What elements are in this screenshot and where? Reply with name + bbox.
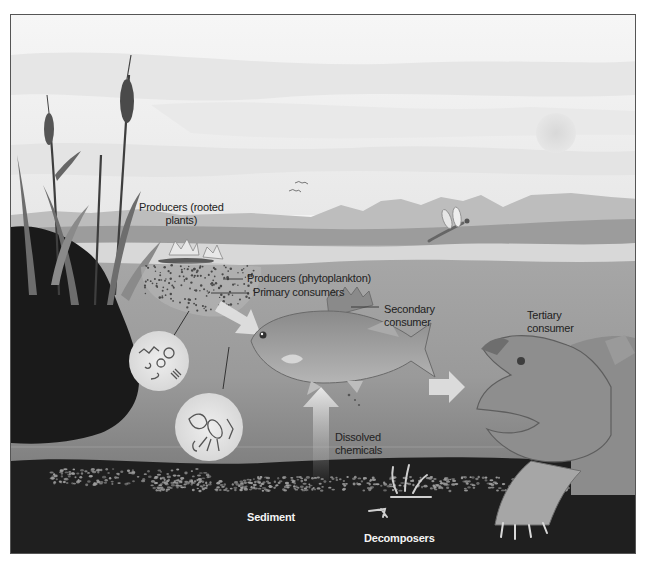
sediment-pebble: [470, 484, 474, 486]
sediment-pebble: [199, 472, 203, 474]
sediment-pebble: [493, 481, 497, 483]
plankton-dot: [170, 278, 172, 280]
plankton-dot: [180, 265, 182, 267]
sediment-pebble: [468, 480, 471, 482]
sediment-pebble: [433, 478, 437, 480]
sediment-pebble: [439, 480, 442, 482]
sediment-pebble: [92, 471, 96, 473]
label-line: Producers (rooted: [139, 201, 224, 214]
sediment-pebble: [383, 482, 385, 485]
plankton-dot: [232, 284, 234, 286]
sediment-pebble: [59, 471, 61, 473]
sediment-pebble: [151, 480, 155, 483]
sediment-pebble: [197, 474, 201, 476]
sediment-pebble: [346, 476, 348, 478]
plankton-dot: [225, 266, 227, 268]
sediment-pebble: [485, 479, 488, 481]
sediment-pebble: [234, 489, 237, 491]
plankton-dot: [237, 285, 239, 287]
sediment-pebble: [206, 485, 209, 487]
plankton-dot: [227, 270, 229, 272]
plankton-dot: [186, 306, 188, 308]
sediment-pebble: [154, 476, 158, 478]
sediment-pebble: [196, 484, 199, 486]
plankton-dot: [239, 298, 241, 300]
sediment-pebble: [380, 485, 382, 487]
sky: [11, 15, 636, 215]
sediment-pebble: [74, 476, 76, 478]
plankton-dot: [144, 285, 146, 287]
sediment-pebble: [184, 472, 187, 475]
plankton-dot: [184, 268, 186, 270]
sediment-pebble: [157, 470, 161, 472]
plankton-dot: [215, 282, 217, 284]
sediment-pebble: [247, 482, 251, 484]
plankton-dot: [219, 297, 220, 298]
sediment-pebble: [451, 478, 455, 480]
sediment-pebble: [226, 490, 229, 492]
plankton-dot: [170, 272, 172, 274]
sediment-pebble: [93, 483, 97, 486]
sediment-pebble: [254, 481, 256, 484]
plankton-dot: [193, 303, 195, 305]
sediment-pebble: [198, 490, 201, 493]
sediment-pebble: [448, 490, 451, 492]
plankton-dot: [165, 278, 166, 279]
plankton-dot: [207, 290, 209, 292]
sediment-pebble: [306, 476, 310, 479]
sediment-pebble: [452, 480, 456, 482]
sediment-pebble: [131, 471, 135, 473]
plankton-dot: [213, 267, 215, 269]
sediment-pebble: [321, 486, 324, 488]
plankton-dot: [154, 278, 156, 280]
plankton-dot: [223, 296, 226, 299]
plankton-dot: [245, 276, 246, 277]
sediment-pebble: [107, 472, 110, 474]
plankton-dot: [170, 264, 173, 267]
sediment-pebble: [300, 485, 304, 488]
sediment-pebble: [400, 482, 404, 484]
sediment-pebble: [176, 468, 179, 470]
sediment-pebble: [63, 478, 67, 480]
sediment-pebble: [293, 485, 296, 487]
plankton-dot: [193, 268, 195, 270]
sediment-pebble: [132, 469, 134, 471]
plankton-dot: [145, 281, 147, 283]
sediment-pebble: [410, 480, 414, 482]
sediment-pebble: [258, 488, 262, 490]
food-chain-diagram: Producers (rooted plants) Producers (phy…: [10, 14, 636, 554]
sediment-pebble: [431, 480, 434, 482]
sediment-pebble: [304, 479, 307, 482]
sediment-pebble: [430, 476, 433, 478]
sediment-pebble: [254, 488, 258, 490]
plankton-dot: [213, 284, 215, 286]
sediment-pebble: [167, 486, 171, 488]
sediment-pebble: [66, 482, 69, 484]
sediment-pebble: [166, 473, 169, 475]
plankton-dot: [210, 309, 212, 311]
sediment-pebble: [61, 475, 63, 477]
sediment-pebble: [196, 479, 198, 481]
plankton-dot: [160, 272, 161, 273]
plankton-dot: [199, 265, 201, 267]
label-primary-consumers: Primary consumers: [253, 286, 344, 299]
plankton-dot: [191, 274, 193, 276]
sediment-pebble: [482, 477, 485, 479]
sediment-pebble: [160, 483, 163, 485]
sediment-pebble: [215, 488, 218, 490]
sediment-pebble: [216, 486, 220, 488]
label-producers-rooted: Producers (rooted plants): [139, 201, 224, 227]
sediment-pebble: [219, 489, 222, 491]
sediment-pebble: [176, 482, 178, 484]
sediment-pebble: [261, 482, 265, 485]
sediment-pebble: [362, 489, 365, 491]
plankton-dot: [162, 286, 164, 288]
sediment-pebble: [249, 489, 253, 491]
plankton-dot: [215, 268, 217, 270]
sediment-pebble: [53, 481, 56, 484]
sediment-pebble: [224, 483, 226, 485]
plankton-dot: [211, 282, 213, 284]
sediment-pebble: [264, 488, 268, 490]
sediment-pebble: [170, 482, 174, 484]
plankton-dot: [213, 289, 214, 290]
